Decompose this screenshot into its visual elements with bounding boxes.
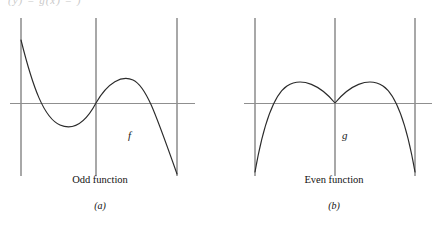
function-label-g: g bbox=[342, 129, 348, 141]
caption-title-odd: Odd function bbox=[20, 174, 180, 185]
odd-function-curve bbox=[21, 40, 177, 174]
chart-panel-even-function: g bbox=[220, 0, 437, 180]
figure-root: (y) = g(x) = ) f g Odd function (a) Even… bbox=[0, 0, 437, 227]
chart-panel-odd-function: f bbox=[0, 0, 220, 180]
caption-letter-b: (b) bbox=[252, 200, 416, 211]
caption-title-even: Even function bbox=[252, 174, 416, 185]
function-label-f: f bbox=[128, 129, 133, 141]
caption-letter-a: (a) bbox=[20, 200, 180, 211]
